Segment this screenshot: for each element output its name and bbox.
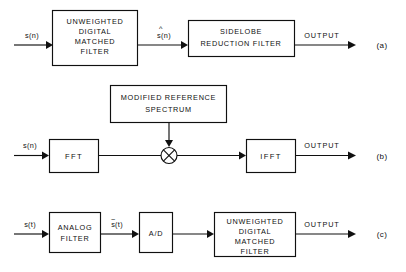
row-a-input-arrow — [14, 41, 53, 49]
block-ad-label: A/D — [149, 229, 163, 238]
row-a: s(n) UNWEIGHTED DIGITAL MATCHED FILTER ^… — [14, 11, 387, 66]
row-c-intermediate-label: s(t) — [111, 220, 123, 229]
block-a1-line-2: DIGITAL — [79, 27, 112, 36]
row-b: MODIFIED REFERENCE SPECTRUM s(n) FFT — [14, 86, 387, 173]
block-c1-line-1: ANALOG — [58, 223, 93, 232]
block-a1-line-4: FILTER — [81, 47, 110, 56]
row-c: s(t) ANALOG FILTER ~ s(t) A/D UNWEIGHTE — [14, 213, 387, 257]
diagram-canvas: s(n) UNWEIGHTED DIGITAL MATCHED FILTER ^… — [0, 0, 406, 272]
block-c1-line-2: FILTER — [61, 234, 90, 243]
row-c-tag: (c) — [377, 230, 388, 239]
block-c3-line-4: FILTER — [241, 247, 270, 256]
row-c-input-arrow — [14, 230, 49, 238]
row-a-output-arrow — [295, 41, 357, 49]
block-a2-line-2: REDUCTION FILTER — [200, 39, 281, 48]
block-diagram-figure: s(n) UNWEIGHTED DIGITAL MATCHED FILTER ^… — [0, 0, 406, 272]
block-c3-line-2: DIGITAL — [239, 227, 272, 236]
row-b-spectrum-feed-arrow — [165, 123, 173, 148]
row-c-ad-to-filter-arrow — [173, 230, 215, 238]
block-a2-line-1: SIDELOBE — [220, 27, 262, 36]
row-a-intermediate-arrow — [138, 41, 189, 49]
row-b-input-label: s(n) — [23, 141, 37, 150]
block-mrs-line-1: MODIFIED REFERENCE — [121, 93, 216, 102]
row-a-input-label: s(n) — [25, 31, 39, 40]
row-c-intermediate-arrow — [101, 230, 140, 238]
row-b-output-arrow — [296, 152, 357, 160]
row-c-output-arrow — [296, 230, 357, 238]
row-b-output-label: OUTPUT — [304, 141, 339, 150]
row-a-output-label: OUTPUT — [304, 31, 339, 40]
row-a-intermediate-label: s(n) — [157, 31, 171, 40]
row-b-input-arrow — [14, 152, 49, 160]
block-a1-line-3: MATCHED — [75, 37, 115, 46]
row-a-tag: (a) — [377, 41, 388, 50]
block-c3-line-1: UNWEIGHTED — [227, 217, 284, 226]
row-b-tag: (b) — [377, 152, 388, 161]
multiplier-icon — [161, 148, 177, 164]
block-analog-filter — [50, 213, 101, 253]
row-c-input-label: s(t) — [24, 220, 36, 229]
block-fft-label: FFT — [65, 152, 83, 161]
row-b-multiplier-to-ifft-arrow — [177, 152, 246, 160]
block-mrs-line-2: SPECTRUM — [145, 105, 192, 114]
row-c-output-label: OUTPUT — [304, 220, 339, 229]
block-c3-line-3: MATCHED — [235, 237, 275, 246]
block-a1-line-1: UNWEIGHTED — [67, 17, 124, 26]
block-ifft-label: IFFT — [260, 152, 282, 161]
